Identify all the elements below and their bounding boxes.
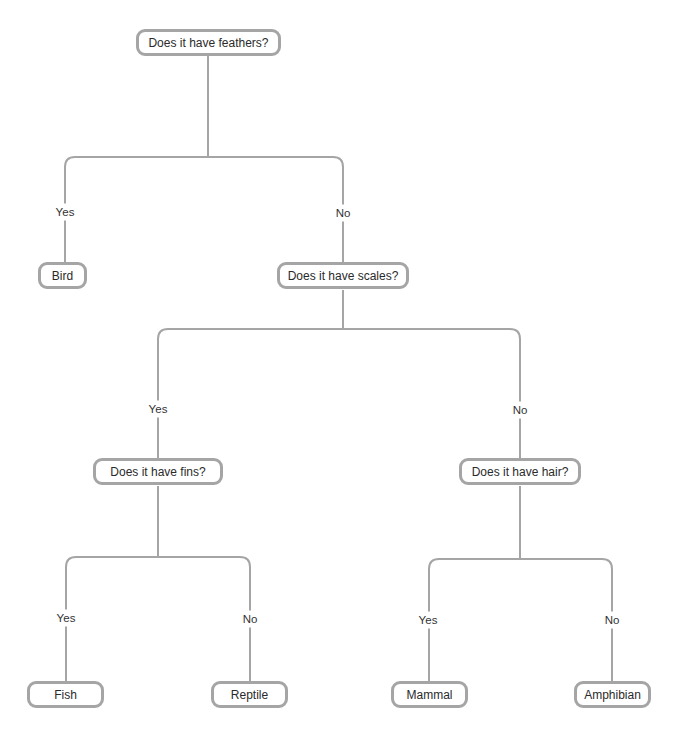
node-bird: Bird [38,262,87,289]
edge-label-fins-no: No [243,611,258,628]
node-amphibian: Amphibian [574,681,651,708]
node-hair-question: Does it have hair? [459,458,581,485]
node-fins-question: Does it have fins? [93,458,223,485]
edge-label-hair-yes: Yes [419,612,438,629]
node-fish: Fish [27,681,104,708]
edge-label-feathers-yes: Yes [56,204,75,221]
node-mammal: Mammal [391,681,468,708]
edge-label-scales-no: No [513,402,528,419]
connector-lines [0,0,683,736]
edge-label-feathers-no: No [336,205,351,222]
node-feathers-question: Does it have feathers? [136,29,281,56]
node-scales-question: Does it have scales? [277,262,409,289]
edge-label-hair-no: No [605,612,620,629]
edge-label-scales-yes: Yes [149,401,168,418]
node-reptile: Reptile [211,681,288,708]
edge-label-fins-yes: Yes [57,610,76,627]
